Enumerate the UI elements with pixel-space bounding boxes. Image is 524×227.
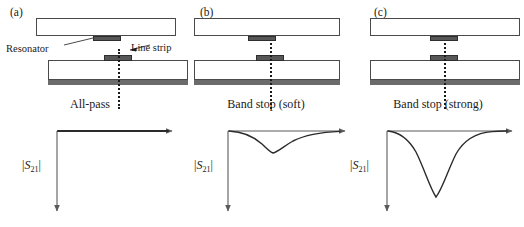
caption-a: All-pass [0,97,180,112]
caption-c: Band stop (strong) [352,97,524,112]
panel-b: (b) Band stop (soft) |S21| [180,0,352,227]
resonator-patch-c [430,36,458,41]
panel-c: (c) Band stop (strong) |S21| [352,0,524,227]
upper-substrate-b [194,18,340,36]
caption-b: Band stop (soft) [180,97,352,112]
resonator-patch-b [248,36,276,41]
panel-a: (a) Resonator Line strip All-pass |S21| [0,0,180,227]
plot-band-stop-soft [180,118,352,223]
ground-plane-b [194,79,340,85]
panel-label-b: (b) [200,6,213,18]
upper-substrate-c [370,18,520,36]
panel-label-c: (c) [374,6,387,18]
figure-resonator-coupling: (a) Resonator Line strip All-pass |S21| [0,0,524,227]
plot-all-pass [0,118,180,223]
plot-band-stop-strong [352,118,524,223]
